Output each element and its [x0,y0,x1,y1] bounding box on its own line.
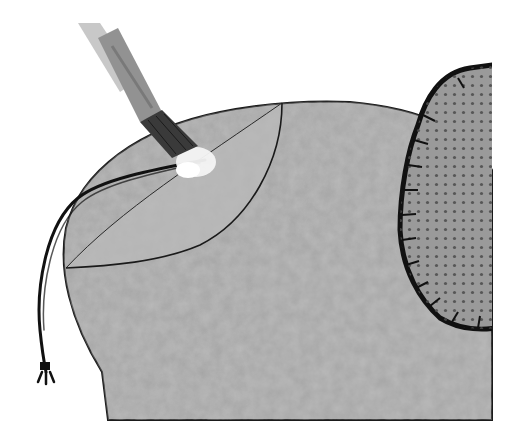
paintbrush-icon [78,23,198,158]
dotted-scalloped-shape [400,60,530,329]
craft-illustration [0,0,530,447]
